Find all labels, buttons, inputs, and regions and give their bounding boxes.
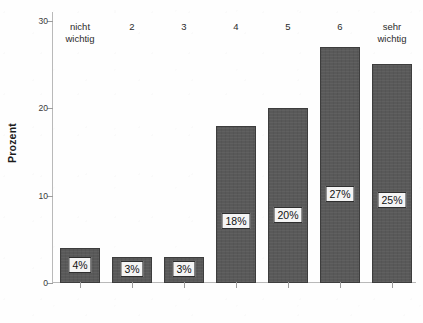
y-axis-tick-label: 10 bbox=[39, 191, 48, 201]
x-axis-tick-mark bbox=[340, 282, 341, 288]
bar-value-label: 4% bbox=[68, 257, 91, 273]
bar: 18% bbox=[216, 126, 257, 283]
bar: 20% bbox=[268, 108, 309, 283]
bar: 3% bbox=[112, 257, 153, 283]
x-axis-tick-label: 3 bbox=[181, 21, 186, 33]
bar-value-label: 25% bbox=[377, 192, 406, 208]
x-axis-tick-mark bbox=[288, 282, 289, 288]
y-axis-label: Prozent bbox=[0, 0, 23, 323]
bar-value-label: 18% bbox=[221, 213, 250, 229]
bar: 25% bbox=[372, 64, 413, 283]
x-axis-tick-label: 5 bbox=[285, 21, 290, 33]
bar-value-label: 3% bbox=[120, 261, 143, 277]
bar-chart: Prozent 0102030 4%3%3%18%20%27%25% nicht… bbox=[0, 0, 423, 323]
x-axis-tick-label: nicht wichtig bbox=[65, 21, 94, 44]
y-axis-tick-label: 20 bbox=[39, 103, 48, 113]
x-axis-tick-label: 4 bbox=[233, 21, 238, 33]
x-axis-tick-label: 2 bbox=[129, 21, 134, 33]
x-axis-tick-mark bbox=[184, 282, 185, 288]
x-axis-tick-label: sehr wichtig bbox=[377, 21, 406, 44]
y-axis-label-text: Prozent bbox=[6, 103, 18, 183]
bar-value-label: 27% bbox=[325, 186, 354, 202]
bar: 4% bbox=[60, 248, 101, 283]
x-axis-tick-label: 6 bbox=[337, 21, 342, 33]
bar: 27% bbox=[320, 47, 361, 283]
bar-value-label: 20% bbox=[273, 207, 302, 223]
y-axis-line bbox=[52, 12, 53, 283]
bar-value-label: 3% bbox=[172, 261, 195, 277]
x-axis-tick-mark bbox=[236, 282, 237, 288]
plot-area: 0102030 4%3%3%18%20%27%25% nicht wichtig… bbox=[52, 12, 416, 283]
x-axis-tick-mark bbox=[392, 282, 393, 288]
x-axis-tick-mark bbox=[132, 282, 133, 288]
bar: 3% bbox=[164, 257, 205, 283]
y-axis-tick-label: 0 bbox=[43, 278, 48, 288]
x-axis-tick-mark bbox=[80, 282, 81, 288]
y-axis-tick-label: 30 bbox=[39, 16, 48, 26]
